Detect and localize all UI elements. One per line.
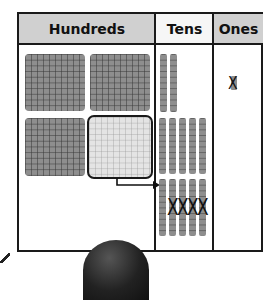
- hundred-flat-1: [25, 54, 85, 111]
- ten-rod: [159, 179, 166, 236]
- ten-rod: [199, 118, 206, 174]
- cross-out-mark: X: [197, 196, 209, 218]
- ten-rod: [159, 118, 166, 174]
- hundred-flat-regrouped: [87, 115, 153, 179]
- hundred-flat-2: [90, 54, 150, 111]
- header-hundreds: Hundreds: [19, 14, 155, 45]
- header-tens: Tens: [156, 14, 213, 45]
- ten-rod: [189, 118, 196, 174]
- ten-rod: [170, 54, 177, 112]
- divider-tens-ones: [212, 14, 214, 250]
- regroup-arrow-icon: [115, 177, 165, 193]
- ten-rod: [160, 54, 167, 112]
- photo-corner-shape: [0, 253, 10, 263]
- hundred-flat-3: [25, 118, 85, 176]
- ten-rod: [179, 118, 186, 174]
- divider-hundreds-tens: [154, 14, 156, 250]
- cross-out-mark: X: [228, 73, 238, 91]
- place-value-chart: Hundreds Tens Ones X X X X X: [17, 12, 263, 252]
- photo-head-shape: [83, 240, 149, 300]
- ten-rod: [169, 118, 176, 174]
- header-ones: Ones: [214, 14, 263, 45]
